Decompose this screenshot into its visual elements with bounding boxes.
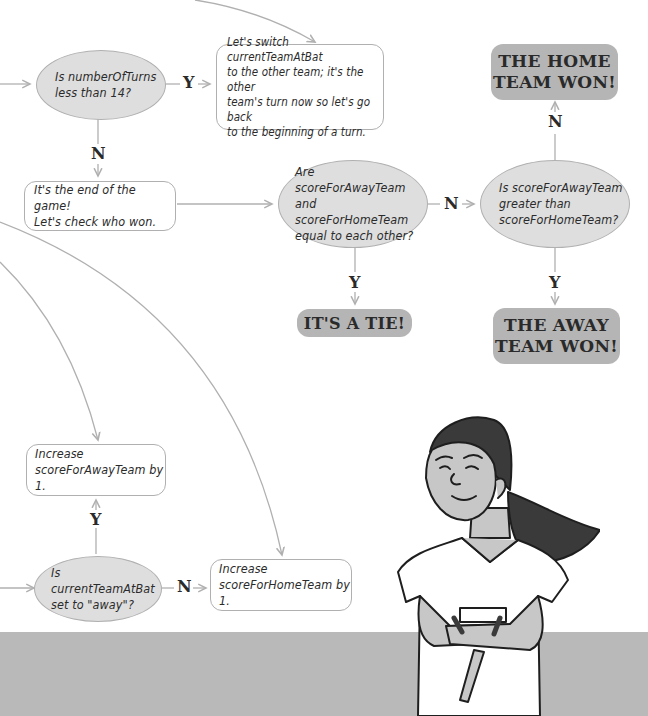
decision-away-greater-check: Is scoreForAwayTeam greater than scoreFo… bbox=[480, 160, 630, 248]
girl-illustration bbox=[390, 412, 600, 716]
decision-tie-check: Are scoreForAwayTeam and scoreForHomeTea… bbox=[278, 160, 428, 248]
decision-team-at-bat-check: Is currentTeamAtBat set to "away"? bbox=[34, 556, 162, 622]
label-no-away-greater: N bbox=[548, 112, 563, 131]
label-yes-turns: Y bbox=[183, 73, 194, 92]
label-no-tie: N bbox=[444, 194, 459, 213]
label-yes-away-greater: Y bbox=[549, 273, 560, 292]
decision-text: Is currentTeamAtBat set to "away"? bbox=[51, 565, 161, 613]
decision-turns-check: Is numberOfTurns less than 14? bbox=[36, 50, 166, 120]
result-away-won: THE AWAY TEAM WON! bbox=[493, 308, 620, 364]
action-text: Increase scoreForHomeTeam by 1. bbox=[219, 561, 351, 609]
decision-text: Is numberOfTurns less than 14? bbox=[55, 69, 156, 101]
label-yes-tie: Y bbox=[349, 273, 360, 292]
action-text: It's the end of the game! Let's check wh… bbox=[34, 182, 175, 230]
decision-text: Are scoreForAwayTeam and scoreForHomeTea… bbox=[295, 164, 427, 244]
action-switch-team: Let's switch currentTeamAtBat to the oth… bbox=[216, 44, 384, 130]
action-increase-home: Increase scoreForHomeTeam by 1. bbox=[210, 559, 352, 611]
action-text: Let's switch currentTeamAtBat to the oth… bbox=[227, 35, 383, 140]
label-yes-team-at-bat: Y bbox=[90, 510, 101, 529]
decision-text: Is scoreForAwayTeam greater than scoreFo… bbox=[499, 180, 623, 228]
result-tie: IT'S A TIE! bbox=[297, 309, 412, 337]
action-increase-away: Increase scoreForAwayTeam by 1. bbox=[26, 444, 166, 496]
action-end-game: It's the end of the game! Let's check wh… bbox=[24, 181, 176, 231]
label-no-team-at-bat: N bbox=[177, 577, 192, 596]
result-home-won: THE HOME TEAM WON! bbox=[491, 44, 618, 100]
label-no-turns: N bbox=[91, 144, 106, 163]
action-text: Increase scoreForAwayTeam by 1. bbox=[35, 446, 165, 494]
